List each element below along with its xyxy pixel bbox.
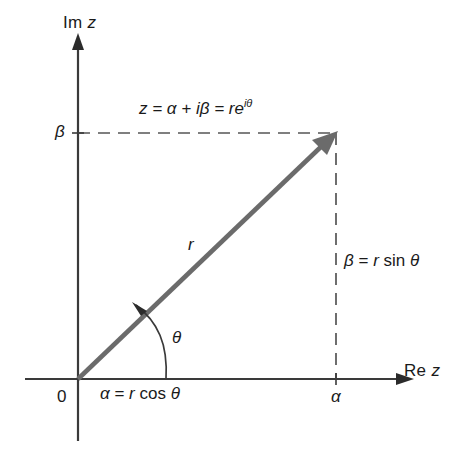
real-part-r: r [129, 384, 135, 403]
imaginary-part-theta: θ [410, 251, 419, 270]
imaginary-axis-label-variable: z [88, 13, 97, 32]
origin-label: 0 [57, 388, 66, 405]
imaginary-axis-arrowhead [72, 33, 84, 50]
real-part-equation-label: α = r cos θ [100, 385, 180, 402]
real-part-function: cos [140, 384, 166, 403]
imaginary-part-symbol: β [344, 251, 354, 270]
z-equation-label: z = α + iβ = reiθ [139, 98, 252, 117]
alpha-tick-label: α [331, 388, 341, 405]
real-part-symbol: α [100, 384, 110, 403]
radius-vector-line [78, 142, 326, 379]
diagram-canvas [0, 0, 462, 468]
real-axis-label-prefix: Re [404, 361, 426, 380]
complex-plane-figure: Im z Re z β α 0 z = α + iβ = reiθ r θ α … [0, 0, 462, 468]
real-part-theta: θ [171, 384, 180, 403]
imaginary-part-equals: = [358, 251, 368, 270]
imaginary-axis-label: Im z [63, 14, 96, 31]
z-equation-body: z = α + iβ = re [139, 99, 244, 118]
real-part-equals: = [114, 384, 124, 403]
imaginary-part-function: sin [384, 251, 406, 270]
imaginary-axis-label-prefix: Im [63, 13, 82, 32]
beta-tick-label: β [55, 123, 65, 140]
imaginary-part-r: r [373, 251, 379, 270]
z-equation-exponent: iθ [244, 97, 252, 109]
radius-label: r [188, 236, 194, 253]
real-axis-label: Re z [404, 362, 440, 379]
real-axis-label-variable: z [431, 361, 440, 380]
imaginary-part-equation-label: β = r sin θ [344, 252, 419, 269]
angle-label: θ [172, 329, 181, 346]
